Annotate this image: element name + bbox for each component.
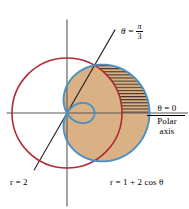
- fraction-numerator: π: [136, 23, 142, 32]
- theta-symbol: θ =: [121, 26, 134, 36]
- polar-graph-figure: θ = π 3 θ = 0 Polar axis r = 2 r = 1 + 2…: [0, 0, 189, 209]
- theta-equals-zero-label: θ = 0: [147, 104, 187, 114]
- pi-over-3-fraction: π 3: [136, 23, 143, 41]
- theta-pi-over-3-label: θ = π 3: [121, 23, 143, 41]
- polar-axis-label-block: θ = 0 Polar axis: [147, 104, 187, 136]
- axis-word-label: axis: [147, 127, 187, 136]
- limacon-equation-label: r = 1 + 2 cos θ: [110, 178, 163, 187]
- fraction-denominator: 3: [136, 32, 142, 41]
- circle-equation-label: r = 2: [10, 178, 28, 187]
